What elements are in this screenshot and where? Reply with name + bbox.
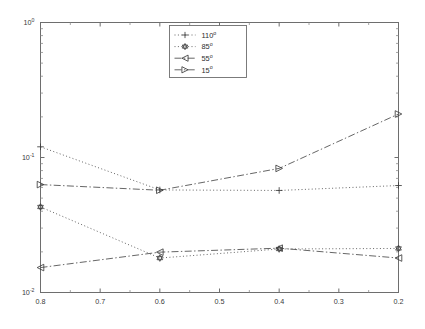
series-110 <box>37 144 402 194</box>
y-tick-label: 10-1 <box>22 152 35 162</box>
series-line-85 <box>41 207 399 258</box>
x-tick-label: 0.7 <box>95 297 105 306</box>
figure-canvas: 0.80.70.60.50.40.30.2 10010-110-2 110o85… <box>0 0 425 329</box>
data-point-plus <box>276 187 283 194</box>
series-line-55 <box>41 248 399 267</box>
series-line-15 <box>41 114 399 190</box>
x-tick-label: 0.5 <box>215 297 225 306</box>
data-point-plus <box>37 144 44 151</box>
x-tick-label: 0.2 <box>394 297 404 306</box>
x-tick-label: 0.6 <box>155 297 165 306</box>
y-tick-label: 100 <box>24 17 35 27</box>
x-axis-tick-labels: 0.80.70.60.50.40.30.2 <box>36 297 404 306</box>
x-tick-label: 0.3 <box>334 297 344 306</box>
x-tick-label: 0.8 <box>36 297 46 306</box>
series-85 <box>38 204 402 262</box>
series-15 <box>37 111 402 194</box>
log-line-chart: 0.80.70.60.50.40.30.2 10010-110-2 110o85… <box>0 0 425 329</box>
x-tick-label: 0.4 <box>274 297 284 306</box>
series-55 <box>37 245 402 271</box>
series-line-110 <box>41 147 399 191</box>
chart-legend: 110o85o55o15o <box>170 26 247 78</box>
data-series-layer <box>37 111 402 271</box>
y-axis-tick-labels: 10010-110-2 <box>22 17 35 297</box>
y-tick-label: 10-2 <box>22 287 35 297</box>
